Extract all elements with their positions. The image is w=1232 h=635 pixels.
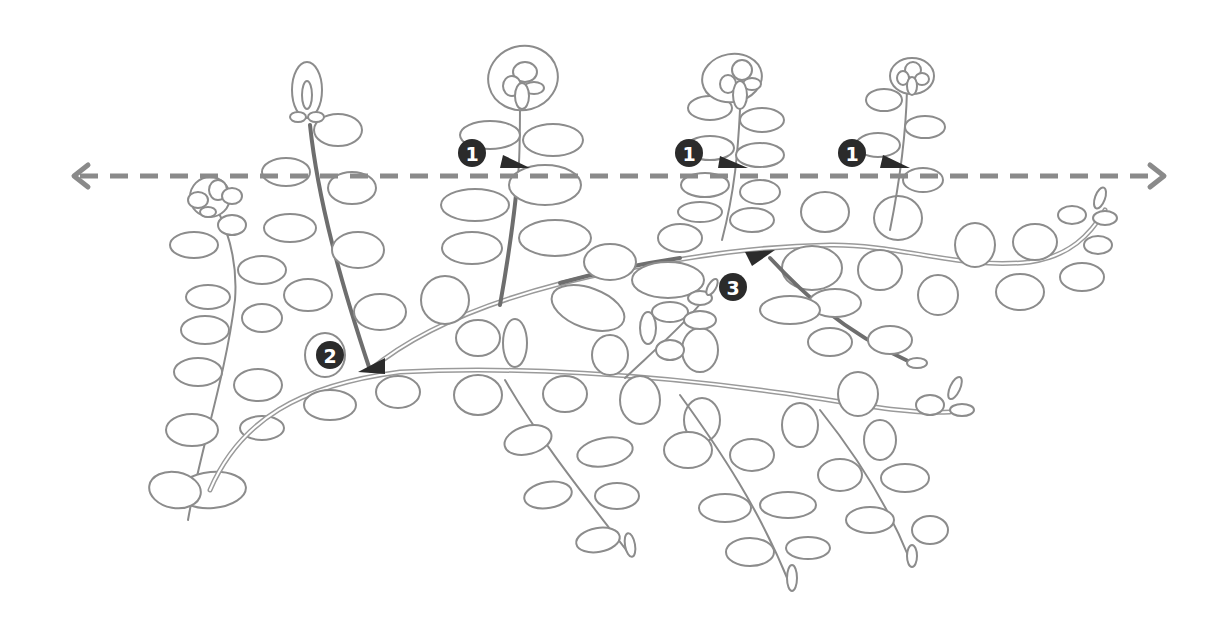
svg-text:1: 1 — [682, 143, 695, 165]
marker-1a: 1 — [458, 139, 486, 167]
bud-icon — [290, 62, 324, 122]
pointer-1c-icon — [880, 155, 910, 168]
small-flower-icon — [188, 177, 242, 217]
pointer-2-icon — [358, 358, 385, 374]
marker-1b: 1 — [675, 139, 703, 167]
marker-2: 2 — [316, 341, 344, 369]
svg-text:1: 1 — [465, 143, 478, 165]
flower-stem-a — [441, 38, 591, 305]
svg-text:3: 3 — [726, 277, 739, 299]
marker-3: 3 — [719, 273, 747, 301]
height-guide-line — [74, 165, 1164, 187]
svg-text:2: 2 — [323, 345, 336, 367]
flower-icon — [481, 38, 565, 118]
tall-stem-2 — [262, 62, 406, 377]
marker-1c: 1 — [838, 139, 866, 167]
plant-pruning-diagram: 1 1 1 2 3 — [0, 0, 1232, 635]
arrow-right-icon — [1150, 165, 1164, 187]
flower-icon — [890, 58, 934, 95]
pointer-1a-icon — [500, 155, 530, 168]
svg-text:1: 1 — [845, 143, 858, 165]
